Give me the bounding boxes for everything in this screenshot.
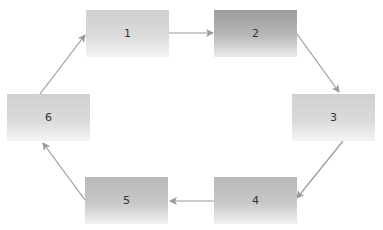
node-3: 3 [292,94,375,141]
arrow-6-to-1 [40,35,85,94]
node-6-label: 6 [45,111,52,124]
node-4: 4 [214,177,297,224]
arrow-2-to-3 [297,34,339,92]
node-1: 1 [86,10,169,57]
node-6: 6 [7,94,90,141]
node-5: 5 [85,177,168,224]
node-1-label: 1 [124,27,131,40]
node-3-label: 3 [330,111,337,124]
node-4-label: 4 [252,194,259,207]
node-2: 2 [214,10,297,57]
arrow-5-to-6 [43,143,85,200]
node-2-label: 2 [252,27,259,40]
arrow-3-to-4 [297,141,343,198]
node-5-label: 5 [123,194,130,207]
